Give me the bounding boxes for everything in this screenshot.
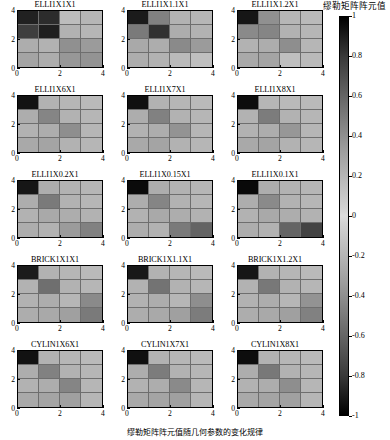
heatmap-cell [18, 110, 39, 124]
heatmap-cell [170, 351, 191, 365]
heatmap-cell [149, 96, 170, 110]
y-tick-label: 4 [2, 262, 15, 270]
heatmap-plot-area [237, 265, 323, 323]
heatmap-cell [18, 209, 39, 223]
colorbar-tick-label: 1 [352, 12, 356, 20]
heatmap-cell [128, 280, 149, 294]
heatmap-cell [128, 181, 149, 195]
x-tick-label: 2 [273, 240, 287, 248]
x-tick-label: 0 [230, 325, 244, 333]
colorbar-tick-label: 0.4 [352, 132, 362, 140]
y-tick-mark [237, 209, 240, 210]
heatmap-cell [238, 379, 259, 393]
heatmap-plot-area [17, 265, 103, 323]
subplot-elli1x0.15x1: ELLI1X0.15X1420024 [110, 170, 220, 255]
subplot-title: BRICK1X1X1 [0, 255, 110, 265]
x-tick-label: 2 [163, 410, 177, 418]
heatmap-cell [238, 223, 259, 237]
heatmap-cell [149, 209, 170, 223]
y-tick-mark [17, 294, 20, 295]
x-tick-label: 4 [96, 410, 110, 418]
heatmap-cell [301, 266, 322, 280]
y-tick-mark [237, 350, 240, 351]
heatmap-cell [191, 25, 212, 39]
heatmap-cell [238, 11, 259, 25]
heatmap-cell [60, 308, 81, 322]
heatmap-cell [60, 53, 81, 67]
y-tick-mark [17, 124, 20, 125]
heatmap-cell [128, 138, 149, 152]
y-tick-mark [17, 379, 20, 380]
heatmap-cell [170, 209, 191, 223]
heatmap-cell [238, 308, 259, 322]
x-tick-mark [323, 320, 324, 323]
heatmap-cell [280, 280, 301, 294]
x-tick-label: 4 [206, 410, 220, 418]
heatmap-cell [238, 294, 259, 308]
heatmap-cell [238, 53, 259, 67]
heatmap-cell [170, 110, 191, 124]
x-tick-mark [103, 405, 104, 408]
heatmap-cell [259, 294, 280, 308]
heatmap-cell [81, 379, 102, 393]
heatmap-cell [39, 96, 60, 110]
y-tick-label: 4 [222, 262, 235, 270]
x-tick-mark [170, 405, 171, 408]
x-tick-mark [323, 65, 324, 68]
x-tick-label: 4 [206, 240, 220, 248]
heatmap-cell [280, 181, 301, 195]
heatmap-cell [149, 365, 170, 379]
x-tick-label: 0 [230, 70, 244, 78]
heatmap-cell [81, 223, 102, 237]
x-tick-label: 0 [120, 410, 134, 418]
y-tick-label: 2 [2, 206, 15, 214]
colorbar-tick-label: -1 [352, 412, 359, 420]
x-tick-label: 0 [120, 325, 134, 333]
heatmap-cell [18, 138, 39, 152]
heatmap-cell [128, 11, 149, 25]
heatmap-cell [81, 308, 102, 322]
x-tick-mark [213, 65, 214, 68]
heatmap-plot-area [127, 265, 213, 323]
heatmap-cell [39, 181, 60, 195]
heatmap-cell [81, 25, 102, 39]
heatmap-cell [301, 124, 322, 138]
heatmap-cell [39, 110, 60, 124]
heatmap-cell [60, 96, 81, 110]
heatmap-cells [238, 181, 322, 237]
heatmap-cell [191, 294, 212, 308]
heatmap-cell [238, 25, 259, 39]
heatmap-cell [191, 39, 212, 53]
x-tick-label: 2 [53, 240, 67, 248]
heatmap-cell [259, 39, 280, 53]
heatmap-cells [128, 96, 212, 152]
x-tick-label: 4 [316, 410, 330, 418]
x-tick-label: 0 [10, 410, 24, 418]
heatmap-cell [170, 39, 191, 53]
y-tick-mark [237, 379, 240, 380]
heatmap-cell [301, 110, 322, 124]
x-tick-mark [60, 235, 61, 238]
heatmap-cells [18, 351, 102, 407]
heatmap-cell [280, 25, 301, 39]
heatmap-cell [18, 308, 39, 322]
heatmap-cell [170, 96, 191, 110]
heatmap-cell [191, 110, 212, 124]
x-tick-label: 2 [163, 155, 177, 163]
heatmap-plot-area [237, 95, 323, 153]
heatmap-plot-area [127, 10, 213, 68]
colorbar-tick-label: 0.6 [352, 92, 362, 100]
heatmap-cell [39, 294, 60, 308]
y-tick-label: 2 [2, 36, 15, 44]
y-tick-label: 4 [2, 7, 15, 15]
heatmap-cell [280, 393, 301, 407]
heatmap-cell [39, 351, 60, 365]
heatmap-cell [301, 294, 322, 308]
subplot-cylin1x8x1: CYLIN1X8X1420024 [220, 340, 330, 425]
heatmap-cell [60, 266, 81, 280]
heatmap-cell [238, 181, 259, 195]
x-tick-mark [127, 320, 128, 323]
heatmap-cell [60, 209, 81, 223]
heatmap-cell [259, 96, 280, 110]
x-tick-label: 2 [163, 240, 177, 248]
